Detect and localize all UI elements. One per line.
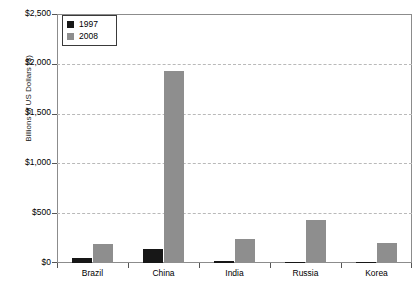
legend-item-2008: 2008 <box>67 31 98 42</box>
bar-2008-china <box>164 71 184 263</box>
y-tick-label-2000: $2,000 <box>5 58 51 67</box>
bar-1997-india <box>214 261 234 263</box>
gridline-500 <box>57 213 412 214</box>
bar-2008-india <box>235 239 255 263</box>
y-tick-label-1500: $1,500 <box>5 108 51 117</box>
bar-1997-korea <box>356 262 376 264</box>
y-tick-label-0: $0 <box>5 258 51 267</box>
y-tickmark-500 <box>52 213 57 214</box>
legend-swatch-1997-icon <box>67 21 74 28</box>
bar-1997-brazil <box>72 258 92 263</box>
legend-label-2008: 2008 <box>79 32 98 41</box>
x-category-label-russia: Russia <box>270 268 341 278</box>
axis-line-left <box>57 14 58 263</box>
x-category-label-china: China <box>128 268 199 278</box>
x-category-label-india: India <box>199 268 270 278</box>
y-tickmark-2500 <box>52 14 57 15</box>
y-axis-tick-labels: $2,500 $2,000 $1,500 $1,000 $500 $0 <box>5 0 51 293</box>
gridline-2000 <box>57 64 412 65</box>
legend-item-1997: 1997 <box>67 19 98 30</box>
y-tick-label-1000: $1,000 <box>5 158 51 167</box>
x-category-label-korea: Korea <box>341 268 412 278</box>
plot-area <box>57 14 412 263</box>
y-tickmark-1000 <box>52 163 57 164</box>
y-tick-label-2500: $2,500 <box>5 9 51 18</box>
gridline-1000 <box>57 163 412 164</box>
legend-label-1997: 1997 <box>79 20 98 29</box>
bar-2008-brazil <box>93 244 113 263</box>
y-tickmark-1500 <box>52 114 57 115</box>
y-tick-label-500: $500 <box>5 208 51 217</box>
bar-2008-korea <box>377 243 397 263</box>
bar-chart: Billions of US Dollars ($) $2,500 $2,000… <box>0 0 419 293</box>
y-tickmark-2000 <box>52 64 57 65</box>
bar-2008-russia <box>306 220 326 263</box>
bar-1997-china <box>143 249 163 263</box>
gridline-1500 <box>57 114 412 115</box>
x-category-label-brazil: Brazil <box>57 268 128 278</box>
axis-line-right <box>411 14 412 263</box>
legend-swatch-2008-icon <box>67 33 74 40</box>
chart-legend: 1997 2008 <box>62 15 117 46</box>
bar-1997-russia <box>285 262 305 264</box>
